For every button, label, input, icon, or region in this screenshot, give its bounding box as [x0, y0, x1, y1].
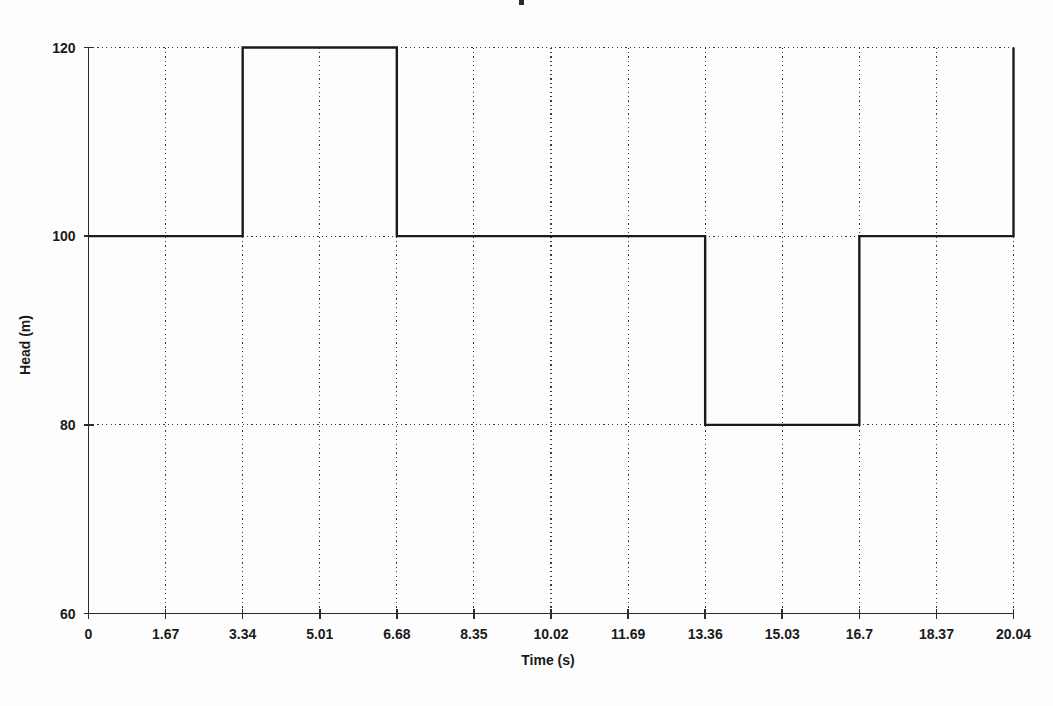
- y-tick-label: 100: [52, 228, 76, 244]
- y-tick-label: 120: [52, 40, 76, 56]
- cropped-title-fragment: [519, 0, 524, 5]
- x-axis-title: Time (s): [521, 652, 574, 668]
- x-tick-label: 6.68: [383, 626, 410, 642]
- x-tick-label: 0: [85, 626, 93, 642]
- x-tick-label: 13.36: [688, 626, 723, 642]
- x-tick-label: 10.02: [533, 626, 568, 642]
- y-tick-label: 80: [60, 417, 76, 433]
- chart-figure: 01.673.345.016.688.3510.0211.6913.3615.0…: [0, 0, 1053, 706]
- chart-canvas: 01.673.345.016.688.3510.0211.6913.3615.0…: [0, 0, 1053, 706]
- x-tick-label: 8.35: [460, 626, 487, 642]
- x-tick-label: 11.69: [611, 626, 645, 642]
- x-tick-label: 16.7: [846, 626, 873, 642]
- x-tick-label: 20.04: [996, 626, 1031, 642]
- chart-background: [0, 0, 1053, 706]
- x-tick-label: 18.37: [919, 626, 954, 642]
- y-axis-title: Head (m): [17, 315, 33, 375]
- y-tick-label: 60: [60, 606, 76, 622]
- x-tick-label: 3.34: [229, 626, 256, 642]
- x-tick-label: 5.01: [306, 626, 333, 642]
- x-tick-label: 1.67: [152, 626, 179, 642]
- x-tick-label: 15.03: [765, 626, 800, 642]
